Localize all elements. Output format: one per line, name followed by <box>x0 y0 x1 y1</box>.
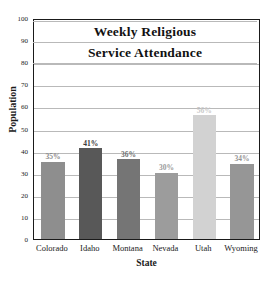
y-tick-label: 40 <box>0 148 28 155</box>
y-tick-label: 10 <box>0 214 28 221</box>
x-axis-title: State <box>33 258 260 268</box>
y-tick-label: 90 <box>0 38 28 45</box>
bar-value-label: 56% <box>197 107 212 115</box>
bar: 35% <box>41 162 64 239</box>
x-axis-ticks: ColoradoIdahoMontanaNevadaUtahWyoming <box>33 242 260 256</box>
bar-value-label: 36% <box>121 151 136 159</box>
bar-value-label: 30% <box>159 164 174 172</box>
bar: 41% <box>79 148 102 239</box>
x-tick-label: Nevada <box>147 242 185 254</box>
x-tick-label: Colorado <box>33 242 71 254</box>
bar-value-label: 41% <box>83 140 98 148</box>
x-tick-label: Idaho <box>71 242 109 254</box>
x-tick-label: Wyoming <box>222 242 260 254</box>
y-tick-label: 30 <box>0 170 28 177</box>
bar-series: 35%41%36%30%56%34% <box>34 20 259 239</box>
y-tick-label: 70 <box>0 82 28 89</box>
y-tick-label: 0 <box>0 237 28 244</box>
y-tick-label: 50 <box>0 126 28 133</box>
y-tick-label: 100 <box>0 16 28 23</box>
plot-area: 35%41%36%30%56%34% <box>33 19 260 240</box>
bar: 30% <box>155 173 178 239</box>
x-tick-label: Utah <box>184 242 222 254</box>
x-tick-label: Montana <box>109 242 147 254</box>
y-tick-label: 20 <box>0 192 28 199</box>
y-tick-label: 80 <box>0 60 28 67</box>
bar-value-label: 34% <box>235 155 250 163</box>
bar: 34% <box>230 164 253 239</box>
bar-value-label: 35% <box>45 153 60 161</box>
y-tick-label: 60 <box>0 104 28 111</box>
y-axis-ticks: 0102030405060708090100 <box>0 19 30 240</box>
chart-figure: Population 0102030405060708090100 35%41%… <box>0 0 270 282</box>
bar: 36% <box>117 159 140 239</box>
bar: 56% <box>193 115 216 239</box>
